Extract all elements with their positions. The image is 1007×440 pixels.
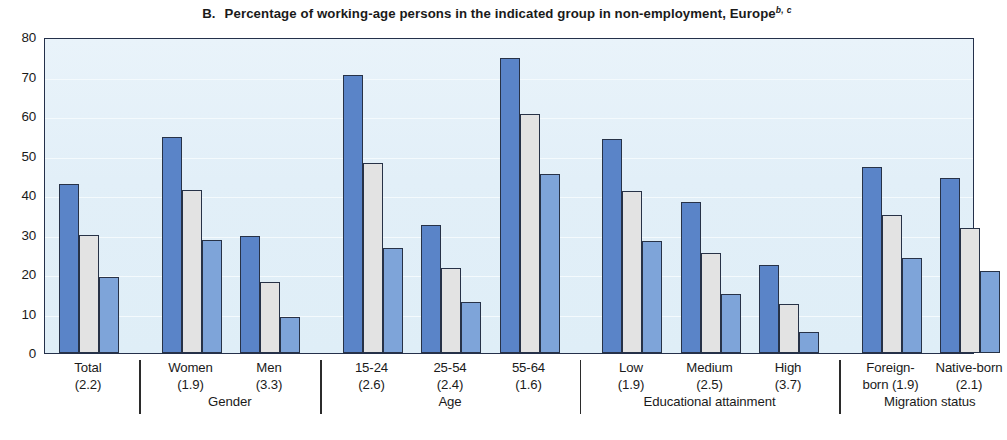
bar bbox=[980, 271, 1000, 353]
bar bbox=[240, 236, 260, 353]
category-line-2: (1.6) bbox=[474, 377, 584, 394]
y-axis-tick-20: 20 bbox=[2, 268, 36, 281]
plot-area bbox=[44, 38, 974, 354]
x-axis-category-label: High(3.7) bbox=[733, 360, 843, 393]
bar bbox=[182, 190, 202, 353]
chart-title-text: Percentage of working-age persons in the… bbox=[225, 6, 776, 21]
y-axis-tick-60: 60 bbox=[2, 110, 36, 123]
category-line-1: Medium bbox=[686, 360, 732, 375]
category-line-1: Low bbox=[619, 360, 643, 375]
y-axis-tick-80: 80 bbox=[2, 31, 36, 44]
chart-title: B.Percentage of working-age persons in t… bbox=[0, 5, 994, 21]
category-line-1: 25-54 bbox=[433, 360, 466, 375]
bar bbox=[500, 58, 520, 353]
bar bbox=[799, 332, 819, 353]
bar bbox=[681, 202, 701, 353]
category-line-1: High bbox=[775, 360, 802, 375]
y-axis-tick-10: 10 bbox=[2, 308, 36, 321]
bar bbox=[363, 163, 383, 353]
category-line-2: (2.2) bbox=[33, 377, 143, 394]
bar bbox=[759, 265, 779, 353]
x-axis-category-label: Men(3.3) bbox=[214, 360, 324, 393]
bar bbox=[383, 248, 403, 353]
x-axis-group-label: Migration status bbox=[810, 394, 1007, 410]
bar bbox=[862, 167, 882, 353]
bar bbox=[441, 268, 461, 353]
bar bbox=[622, 191, 642, 353]
bar bbox=[779, 304, 799, 353]
y-axis-tick-50: 50 bbox=[2, 150, 36, 163]
bar bbox=[343, 75, 363, 353]
x-axis-group-label: Age bbox=[330, 394, 570, 410]
category-line-1: Men bbox=[256, 360, 281, 375]
category-line-1: 55-64 bbox=[512, 360, 545, 375]
bar bbox=[902, 258, 922, 353]
bar bbox=[260, 282, 280, 353]
y-axis-tick-70: 70 bbox=[2, 71, 36, 84]
bar bbox=[59, 184, 79, 353]
y-axis-tick-0: 0 bbox=[2, 347, 36, 360]
panel-letter: B. bbox=[202, 6, 215, 21]
y-axis-labels: 80706050403020100 bbox=[0, 38, 36, 354]
category-line-1: Women bbox=[168, 360, 213, 375]
title-footnote-marker: b, c bbox=[776, 5, 792, 15]
category-line-2: (3.7) bbox=[733, 377, 843, 394]
bar bbox=[520, 114, 540, 353]
bar bbox=[202, 240, 222, 353]
bar bbox=[642, 241, 662, 353]
x-axis-category-label: Native-born(2.1) bbox=[914, 360, 1007, 393]
bar bbox=[99, 277, 119, 353]
x-axis-group-label: Gender bbox=[110, 394, 350, 410]
bar bbox=[960, 228, 980, 353]
bar bbox=[540, 174, 560, 353]
bar bbox=[721, 294, 741, 353]
bar bbox=[162, 137, 182, 353]
bar bbox=[602, 139, 622, 353]
y-axis-tick-40: 40 bbox=[2, 189, 36, 202]
bar bbox=[701, 253, 721, 353]
category-line-2: (3.3) bbox=[214, 377, 324, 394]
category-line-1: Total bbox=[74, 360, 101, 375]
x-axis-category-label: 55-64(1.6) bbox=[474, 360, 584, 393]
x-axis-group-label: Educational attainment bbox=[590, 394, 830, 410]
bar bbox=[79, 235, 99, 353]
bars-container bbox=[45, 39, 973, 353]
category-line-1: Foreign- bbox=[866, 360, 914, 375]
category-line-1: 15-24 bbox=[355, 360, 388, 375]
y-axis-tick-30: 30 bbox=[2, 229, 36, 242]
bar bbox=[421, 225, 441, 353]
bar bbox=[940, 178, 960, 353]
bar bbox=[882, 215, 902, 353]
bar bbox=[280, 317, 300, 353]
category-line-1: Native-born bbox=[935, 360, 1002, 375]
category-line-2: (2.1) bbox=[914, 377, 1007, 394]
x-axis-category-label: Total(2.2) bbox=[33, 360, 143, 393]
bar bbox=[461, 302, 481, 353]
